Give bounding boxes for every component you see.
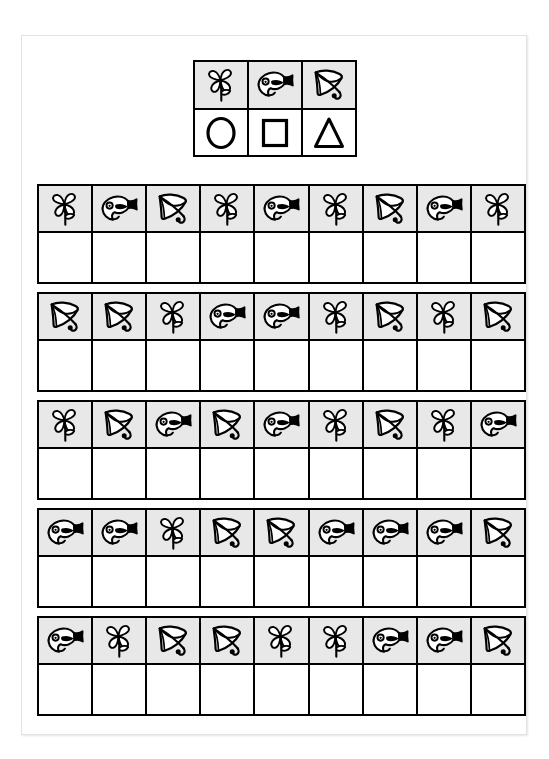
answer-cell[interactable] (254, 232, 308, 283)
prompt-cell-clover (146, 509, 200, 556)
answer-cell[interactable] (92, 664, 146, 715)
clover-icon (315, 297, 357, 337)
legend-key-table (193, 60, 357, 157)
answer-cell[interactable] (254, 664, 308, 715)
answer-cell[interactable] (471, 340, 525, 391)
answer-cell[interactable] (146, 232, 200, 283)
umbrella-icon (206, 405, 248, 445)
umbrella-icon (260, 513, 302, 553)
answer-cell[interactable] (200, 232, 254, 283)
prompt-cell-fish (471, 401, 525, 448)
prompt-cell-umbrella (200, 509, 254, 556)
exercise-rows-container (37, 184, 526, 724)
umbrella-icon (369, 189, 411, 229)
clover-icon (315, 405, 357, 445)
umbrella-icon (477, 297, 519, 337)
answer-cell[interactable] (38, 556, 92, 607)
fish-icon (98, 513, 140, 553)
answer-cell[interactable] (200, 340, 254, 391)
prompt-cell-clover (309, 185, 363, 232)
answer-cell[interactable] (38, 664, 92, 715)
answer-cell[interactable] (309, 448, 363, 499)
prompt-cell-clover (417, 293, 471, 340)
answer-cell[interactable] (417, 340, 471, 391)
prompt-cell-fish (92, 185, 146, 232)
exercise-row-4 (37, 508, 526, 608)
answer-cell[interactable] (92, 556, 146, 607)
prompt-cell-umbrella (92, 293, 146, 340)
answer-cell[interactable] (200, 664, 254, 715)
answer-row (38, 556, 525, 607)
answer-cell[interactable] (309, 340, 363, 391)
answer-cell[interactable] (309, 232, 363, 283)
prompt-cell-clover (417, 401, 471, 448)
exercise-row-2 (37, 292, 526, 392)
answer-cell[interactable] (417, 556, 471, 607)
answer-cell[interactable] (146, 448, 200, 499)
prompt-icon-row (38, 401, 525, 448)
fish-icon (369, 513, 411, 553)
fish-icon (260, 189, 302, 229)
answer-cell[interactable] (146, 340, 200, 391)
answer-cell[interactable] (417, 448, 471, 499)
answer-cell[interactable] (92, 340, 146, 391)
exercise-row-1 (37, 184, 526, 284)
clover-icon (152, 297, 194, 337)
answer-cell[interactable] (254, 448, 308, 499)
answer-cell[interactable] (92, 232, 146, 283)
clover-icon (98, 621, 140, 661)
umbrella-icon (369, 297, 411, 337)
answer-cell[interactable] (363, 340, 417, 391)
prompt-cell-clover (92, 617, 146, 664)
answer-cell[interactable] (417, 664, 471, 715)
answer-cell[interactable] (146, 556, 200, 607)
answer-cell[interactable] (471, 448, 525, 499)
prompt-cell-fish (92, 509, 146, 556)
answer-cell[interactable] (146, 664, 200, 715)
worksheet-page (21, 35, 527, 735)
prompt-cell-fish (254, 293, 308, 340)
answer-cell[interactable] (254, 556, 308, 607)
answer-cell[interactable] (309, 556, 363, 607)
answer-cell[interactable] (309, 664, 363, 715)
answer-cell[interactable] (38, 340, 92, 391)
legend-icon-row (194, 61, 356, 109)
prompt-cell-fish (417, 509, 471, 556)
fish-icon (98, 189, 140, 229)
umbrella-icon (152, 189, 194, 229)
answer-cell[interactable] (92, 448, 146, 499)
answer-cell[interactable] (363, 556, 417, 607)
clover-icon (44, 189, 86, 229)
prompt-cell-fish (254, 185, 308, 232)
prompt-cell-fish (309, 509, 363, 556)
prompt-cell-umbrella (471, 509, 525, 556)
answer-cell[interactable] (363, 448, 417, 499)
answer-cell[interactable] (471, 556, 525, 607)
clover-icon (200, 65, 242, 105)
prompt-cell-fish (146, 401, 200, 448)
answer-cell[interactable] (363, 664, 417, 715)
answer-cell[interactable] (38, 448, 92, 499)
answer-cell[interactable] (200, 556, 254, 607)
answer-cell[interactable] (254, 340, 308, 391)
fish-icon (260, 405, 302, 445)
fish-icon (477, 405, 519, 445)
answer-cell[interactable] (471, 232, 525, 283)
umbrella-icon (98, 405, 140, 445)
clover-icon (477, 189, 519, 229)
prompt-cell-fish (363, 617, 417, 664)
answer-cell[interactable] (417, 232, 471, 283)
prompt-cell-clover (254, 617, 308, 664)
fish-icon (423, 189, 465, 229)
fish-icon (315, 513, 357, 553)
answer-cell[interactable] (200, 448, 254, 499)
umbrella-icon (44, 297, 86, 337)
prompt-cell-umbrella (146, 617, 200, 664)
prompt-cell-umbrella (254, 509, 308, 556)
clover-icon (315, 189, 357, 229)
legend-icon-cell-fish (248, 61, 302, 109)
answer-cell[interactable] (363, 232, 417, 283)
clover-icon (260, 621, 302, 661)
answer-cell[interactable] (471, 664, 525, 715)
answer-cell[interactable] (38, 232, 92, 283)
